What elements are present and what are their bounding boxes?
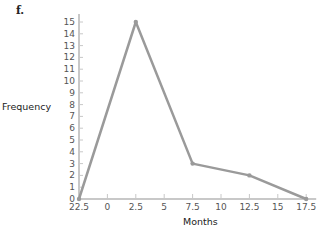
x-tick-label: 22.5 (69, 202, 89, 212)
x-tick-label: 5 (161, 202, 167, 212)
data-point (247, 173, 251, 177)
y-tick-label: 12 (64, 52, 75, 62)
y-tick-label: 10 (64, 76, 76, 86)
frequency-polygon-chart: 012345678910111213141522.502.557.51012.5… (0, 0, 330, 239)
y-tick-label: 7 (69, 111, 75, 121)
y-tick-label: 4 (69, 147, 75, 157)
y-tick-label: 13 (64, 41, 75, 51)
x-tick-label: 12.5 (239, 202, 259, 212)
data-point (77, 197, 81, 201)
data-line (79, 22, 306, 199)
x-tick-label: 0 (105, 202, 111, 212)
x-tick-label: 7.5 (185, 202, 199, 212)
y-tick-label: 6 (69, 123, 75, 133)
y-tick-label: 3 (69, 159, 75, 169)
x-tick-label: 15 (272, 202, 283, 212)
x-tick-label: 2.5 (129, 202, 143, 212)
x-tick-label: 10 (215, 202, 227, 212)
y-tick-label: 15 (64, 17, 75, 27)
y-tick-label: 8 (69, 100, 75, 110)
y-tick-label: 9 (69, 88, 75, 98)
y-tick-label: 14 (64, 29, 76, 39)
data-point (190, 161, 194, 165)
y-tick-label: 2 (69, 170, 75, 180)
data-point (134, 20, 138, 24)
y-tick-label: 5 (69, 135, 75, 145)
data-point (304, 197, 308, 201)
y-tick-label: 11 (64, 64, 75, 74)
y-tick-label: 1 (69, 182, 75, 192)
x-tick-label: 17.5 (296, 202, 316, 212)
